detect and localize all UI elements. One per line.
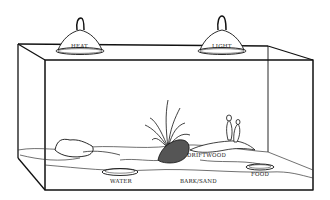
water-label: WATER xyxy=(110,178,132,184)
heat-lamp-label: HEAT xyxy=(71,43,88,49)
tank-left-bottom-edge xyxy=(18,158,45,190)
driftwood-icon xyxy=(190,141,255,152)
tank-left-top-edge xyxy=(18,44,45,60)
water-dish-icon xyxy=(102,169,138,176)
rock-icon xyxy=(55,139,93,157)
tank-front-face xyxy=(45,60,313,190)
substrate-label: BARK/SAND xyxy=(180,178,217,184)
heat-lamp-icon xyxy=(56,18,104,55)
cactus-icon xyxy=(227,115,241,142)
terrarium-drawing xyxy=(0,0,330,200)
tank-right-top-edge xyxy=(268,46,313,60)
terrarium-diagram: HEAT LIGHT DRIFTWOOD WATER BARK/SAND FOO… xyxy=(0,0,330,200)
food-dish-icon xyxy=(246,164,274,170)
food-label: FOOD xyxy=(251,171,269,177)
light-lamp-label: LIGHT xyxy=(212,43,232,49)
driftwood-label: DRIFTWOOD xyxy=(187,152,226,158)
